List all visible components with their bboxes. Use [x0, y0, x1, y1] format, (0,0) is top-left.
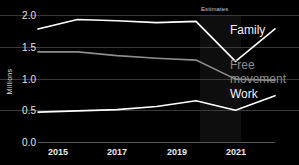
y-tick-label: 0.0: [4, 137, 36, 148]
series-label-family: Family: [230, 24, 265, 36]
y-tick-label: 2.0: [4, 10, 36, 21]
y-axis-title: Millions: [6, 56, 13, 108]
series-label-free-movement-line1: Free: [230, 59, 286, 71]
chart-title-strip: [0, 0, 299, 3]
x-tick-label: 2015: [48, 147, 68, 157]
line-chart: Estimates 2.0 1.5 1.0 0.5 0.0 Millions 2…: [0, 0, 299, 165]
x-tick-label: 2017: [107, 147, 127, 157]
y-tick-label: 1.5: [4, 41, 36, 52]
series-label-free-movement: Free movement: [230, 59, 286, 85]
x-axis: 2015 2017 2019 2021: [0, 147, 299, 163]
series-label-work: Work: [230, 88, 258, 100]
x-tick-label: 2019: [167, 147, 187, 157]
series-label-free-movement-line2: movement: [230, 73, 286, 85]
y-axis: 2.0 1.5 1.0 0.5 0.0 Millions: [0, 0, 36, 165]
estimates-annotation-label: Estimates: [201, 6, 228, 12]
x-tick-label: 2021: [226, 147, 246, 157]
axis-baseline: [38, 142, 275, 143]
